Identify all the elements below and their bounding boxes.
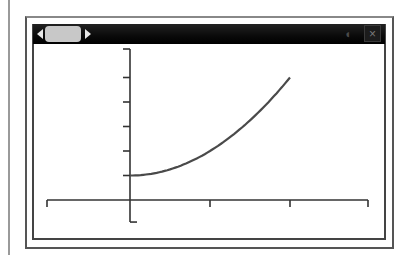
function-curve — [130, 78, 290, 176]
plot-area — [0, 0, 411, 255]
axes — [47, 49, 368, 222]
